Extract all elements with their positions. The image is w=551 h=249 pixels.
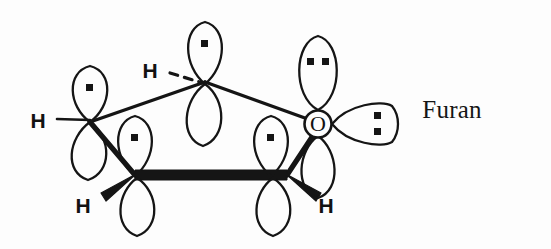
p-orbital-oxygen-upper [299, 36, 337, 110]
wedge-bond-bottom-left [101, 174, 136, 201]
hydrogen-label-bottom-left: H [75, 195, 90, 216]
compound-name-label: Furan [422, 96, 481, 124]
furan-orbital-figure: O H H H H Furan [0, 0, 551, 249]
electron-dot-bottom-right-carbon [267, 134, 274, 141]
hydrogen-label-apex: H [142, 60, 157, 81]
electron-dot [307, 58, 314, 65]
p-lobe-up [118, 116, 152, 176]
p-lobe-down [120, 178, 154, 236]
electron-dot-apex-carbon [201, 40, 208, 47]
electron-dot [374, 112, 381, 119]
hydrogen-label-bottom-right: H [318, 195, 333, 216]
electron-dot [374, 128, 381, 135]
sp2-orbital-oxygen-right [332, 103, 398, 144]
electron-dot [322, 58, 329, 65]
lone-pair-oxygen-upper [307, 58, 329, 65]
p-lobe-down [187, 84, 222, 146]
lone-pair-oxygen-right [374, 112, 381, 135]
p-lobe-up [73, 66, 108, 122]
p-lobe-down [256, 178, 290, 236]
oxygen-atom-label: O [310, 113, 326, 135]
p-lobe-up [188, 22, 222, 84]
hydrogen-label-left: H [30, 110, 45, 131]
p-orbital-left-carbon [72, 66, 108, 180]
p-lobe-down [72, 122, 107, 180]
p-lobe-up [254, 116, 288, 176]
electron-dot-bottom-left-carbon [131, 134, 138, 141]
electron-dot-left-carbon [86, 84, 93, 91]
front-bond-thick [135, 170, 287, 180]
